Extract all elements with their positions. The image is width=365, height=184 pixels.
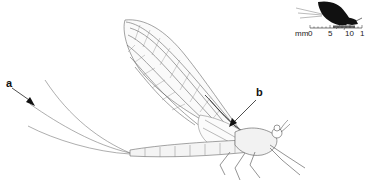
arrow-a	[12, 88, 35, 106]
label-b: b	[256, 87, 263, 98]
mayfly-drawing	[0, 0, 365, 184]
scale-unit: mm	[295, 30, 308, 38]
scale-bar	[310, 25, 362, 28]
abdomen	[130, 140, 250, 157]
arrow-b	[229, 100, 256, 127]
scale-tick-0: 0	[308, 30, 312, 38]
label-a: a	[6, 78, 12, 89]
scale-tick-15: 1	[360, 30, 364, 38]
thorax	[235, 120, 290, 155]
scale-tick-5: 5	[328, 30, 332, 38]
mayfly-figure: a b mm 0 5 10 1	[0, 0, 365, 184]
forewing	[124, 20, 244, 135]
scale-tick-10: 10	[345, 30, 354, 38]
cerci	[28, 80, 130, 154]
